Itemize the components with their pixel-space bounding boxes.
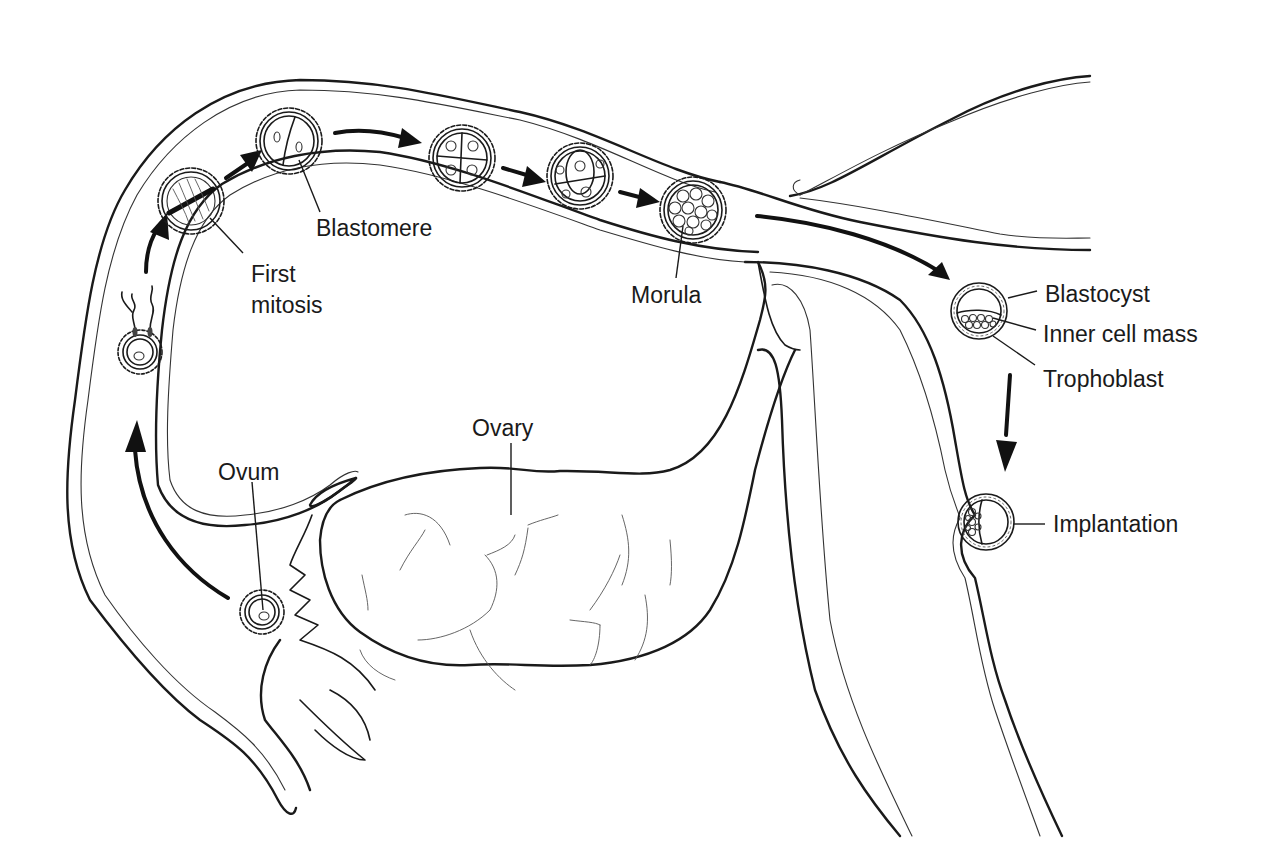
arrowhead-icon: [996, 440, 1017, 472]
morula-embryo: [660, 177, 726, 243]
label-blastocyst: Blastocyst: [1045, 281, 1150, 307]
ovary: [320, 262, 800, 690]
fertilization-cell: [118, 286, 162, 374]
arrowhead-icon: [636, 188, 660, 208]
arrowhead-icon: [522, 166, 546, 187]
label-ovary: Ovary: [472, 415, 534, 441]
eight-cell-embryo: [547, 143, 613, 209]
four-cell-embryo: [429, 125, 495, 191]
label-trophoblast: Trophoblast: [1043, 366, 1164, 392]
implantation-embryo: [958, 494, 1014, 550]
label-ovum: Ovum: [218, 459, 279, 485]
label-blastomere: Blastomere: [316, 215, 432, 241]
two-cell-embryo: [256, 108, 322, 174]
arrow-to-implantation: [1006, 375, 1010, 435]
uterus: [720, 76, 1090, 836]
label-first-mitosis-line1: First: [251, 261, 296, 287]
label-inner-cell-mass: Inner cell mass: [1043, 321, 1198, 347]
label-implantation: Implantation: [1053, 511, 1178, 537]
label-morula: Morula: [631, 282, 702, 308]
arrow-to-four-cell: [335, 131, 405, 138]
arrow-ovum-to-tube: [135, 450, 228, 598]
blastocyst-embryo: [951, 283, 1007, 339]
fallopian-tube: [67, 80, 758, 814]
arrowhead-icon: [125, 420, 146, 452]
embryo-development-diagram: Ovum First mitosis Blastomere Morula Ova…: [0, 0, 1288, 842]
first-mitosis-cell: [158, 168, 224, 234]
arrowhead-icon: [398, 128, 422, 148]
label-first-mitosis-line2: mitosis: [251, 292, 323, 318]
